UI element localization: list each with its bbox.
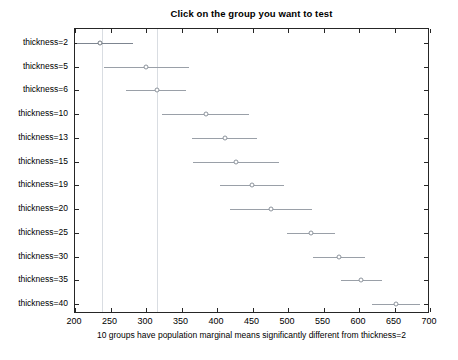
y-tick-label-thickness-19[interactable]: thickness=19 <box>18 179 68 189</box>
y-tick-mark <box>75 304 79 305</box>
y-tick-mark-right <box>424 114 428 115</box>
y-tick-mark-right <box>424 90 428 91</box>
x-tick-mark <box>253 308 254 312</box>
y-tick-mark <box>75 162 79 163</box>
x-tick-mark-top <box>288 29 289 33</box>
y-tick-label-thickness-15[interactable]: thickness=15 <box>18 156 68 166</box>
mean-marker[interactable] <box>234 159 239 164</box>
x-tick-mark <box>75 308 76 312</box>
mean-marker[interactable] <box>249 183 254 188</box>
x-tick-mark <box>111 308 112 312</box>
mean-marker[interactable] <box>308 230 313 235</box>
x-tick-label: 200 <box>66 316 81 326</box>
x-tick-mark-top <box>324 29 325 33</box>
x-tick-label: 450 <box>244 316 259 326</box>
x-tick-label: 650 <box>386 316 401 326</box>
plot-area[interactable] <box>74 28 429 313</box>
x-tick-mark-top <box>395 29 396 33</box>
x-tick-label: 250 <box>102 316 117 326</box>
y-tick-label-thickness-2[interactable]: thickness=2 <box>23 37 68 47</box>
page-title: Click on the group you want to test <box>74 8 429 19</box>
x-tick-label: 550 <box>315 316 330 326</box>
y-tick-mark <box>75 185 79 186</box>
mean-marker[interactable] <box>359 278 364 283</box>
x-tick-mark <box>359 308 360 312</box>
x-tick-mark-top <box>217 29 218 33</box>
y-tick-mark-right <box>424 304 428 305</box>
y-tick-label-thickness-25[interactable]: thickness=25 <box>18 227 68 237</box>
y-tick-mark-right <box>424 43 428 44</box>
y-tick-mark-right <box>424 138 428 139</box>
x-tick-mark-top <box>75 29 76 33</box>
y-tick-mark-right <box>424 185 428 186</box>
x-axis-label: 10 groups have population marginal means… <box>74 330 429 340</box>
y-tick-mark <box>75 257 79 258</box>
mean-marker[interactable] <box>203 112 208 117</box>
y-tick-mark <box>75 90 79 91</box>
y-tick-mark <box>75 280 79 281</box>
x-tick-mark <box>430 308 431 312</box>
y-tick-label-thickness-20[interactable]: thickness=20 <box>18 203 68 213</box>
x-tick-mark-top <box>359 29 360 33</box>
x-tick-mark <box>217 308 218 312</box>
x-tick-mark-top <box>253 29 254 33</box>
x-tick-mark-top <box>111 29 112 33</box>
x-tick-label: 500 <box>279 316 294 326</box>
x-tick-mark <box>288 308 289 312</box>
x-tick-label: 600 <box>350 316 365 326</box>
multcompare-figure: Click on the group you want to test 2002… <box>0 0 458 360</box>
y-tick-label-thickness-5[interactable]: thickness=5 <box>23 61 68 71</box>
y-tick-mark <box>75 138 79 139</box>
x-tick-label: 400 <box>208 316 223 326</box>
y-tick-label-thickness-10[interactable]: thickness=10 <box>18 108 68 118</box>
y-tick-label-thickness-6[interactable]: thickness=6 <box>23 84 68 94</box>
x-tick-label: 700 <box>421 316 436 326</box>
x-tick-label: 350 <box>173 316 188 326</box>
mean-marker[interactable] <box>268 207 273 212</box>
x-tick-mark-top <box>430 29 431 33</box>
x-tick-mark <box>324 308 325 312</box>
x-tick-mark <box>146 308 147 312</box>
mean-marker[interactable] <box>144 64 149 69</box>
x-tick-mark-top <box>146 29 147 33</box>
reference-line <box>157 29 158 312</box>
y-tick-mark-right <box>424 280 428 281</box>
y-tick-mark-right <box>424 209 428 210</box>
mean-marker[interactable] <box>97 40 102 45</box>
x-tick-mark <box>395 308 396 312</box>
y-tick-mark-right <box>424 233 428 234</box>
y-tick-mark <box>75 67 79 68</box>
x-tick-mark <box>182 308 183 312</box>
mean-marker[interactable] <box>154 88 159 93</box>
y-tick-mark <box>75 209 79 210</box>
confidence-interval-line[interactable] <box>77 43 132 44</box>
y-tick-mark <box>75 114 79 115</box>
y-tick-label-thickness-40[interactable]: thickness=40 <box>18 298 68 308</box>
y-tick-label-thickness-13[interactable]: thickness=13 <box>18 132 68 142</box>
y-tick-mark <box>75 233 79 234</box>
x-tick-label: 300 <box>137 316 152 326</box>
y-tick-mark-right <box>424 162 428 163</box>
y-tick-mark-right <box>424 67 428 68</box>
y-tick-mark-right <box>424 257 428 258</box>
reference-line <box>102 29 103 312</box>
mean-marker[interactable] <box>222 135 227 140</box>
mean-marker[interactable] <box>393 302 398 307</box>
y-tick-label-thickness-30[interactable]: thickness=30 <box>18 251 68 261</box>
mean-marker[interactable] <box>337 254 342 259</box>
x-tick-mark-top <box>182 29 183 33</box>
y-tick-label-thickness-35[interactable]: thickness=35 <box>18 274 68 284</box>
